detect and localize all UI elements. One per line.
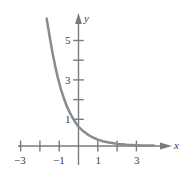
y-tick-label-1: 1 (65, 114, 71, 125)
x-tick-label-pos3: 3 (134, 155, 140, 166)
graph-canvas (0, 0, 189, 179)
y-tick-label-3: 3 (65, 75, 71, 86)
x-axis-arrowhead (160, 143, 172, 150)
x-tick-label-pos1: 1 (96, 155, 102, 166)
x-axis-label: x (174, 140, 179, 151)
y-tick-label-5: 5 (65, 35, 71, 46)
y-axis-label: y (84, 13, 89, 24)
x-tick-label-neg1: −1 (53, 155, 65, 166)
y-axis-arrowhead (75, 13, 82, 24)
exponential-curve (47, 19, 154, 146)
exponential-decay-graph-figure: −3 −1 1 3 1 3 5 x y (0, 0, 189, 179)
x-tick-label-neg3: −3 (14, 155, 26, 166)
